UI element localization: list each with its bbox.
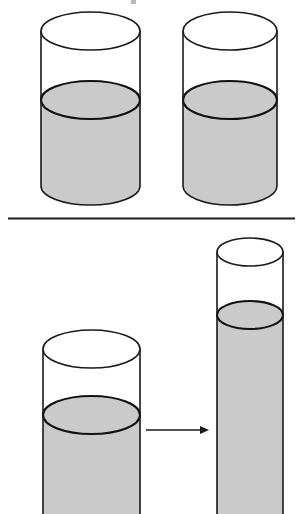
figure-root [0, 0, 300, 514]
horizontal-divider-rule [8, 218, 295, 220]
arrow-head-icon [200, 426, 209, 434]
glass-tall-liquid-body [217, 315, 283, 514]
cylinder-glass-wide [43, 330, 140, 514]
bottom-panel [43, 238, 283, 514]
top-crop-mark [131, 0, 136, 4]
cylinder-glass-left [41, 12, 140, 205]
transformation-arrow [146, 426, 209, 434]
illustration-canvas [0, 0, 300, 514]
cylinder-glass-tall-narrow [217, 238, 283, 514]
top-panel [41, 12, 277, 205]
cylinder-glass-right [183, 12, 277, 205]
